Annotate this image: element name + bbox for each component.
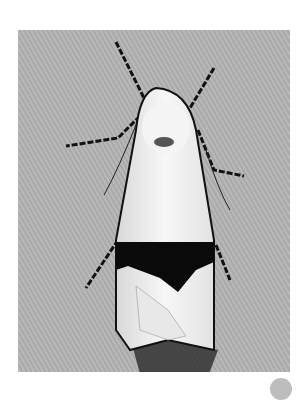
moth-illustration <box>18 30 290 372</box>
corner-circle-icon <box>270 378 292 400</box>
moth-photo <box>18 30 290 372</box>
